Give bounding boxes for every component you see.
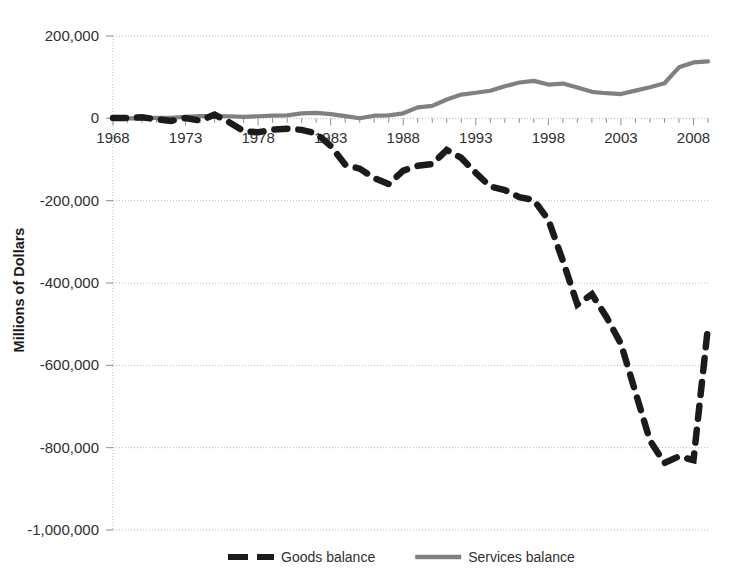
x-tick-label: 2003 [604,129,637,146]
y-tick-label: 0 [91,109,99,126]
data-series [113,61,708,463]
y-tick-label: -800,000 [40,439,99,456]
y-tick-label: -600,000 [40,356,99,373]
y-tick-label: -200,000 [40,192,99,209]
series-line-goods-balance [113,115,708,463]
x-tick-label: 1988 [387,129,420,146]
y-axis-title: Millions of Dollars [11,228,27,353]
x-tick-label: 1973 [169,129,202,146]
series-line-services-balance [113,61,708,118]
line-chart: 200,0000-200,000-400,000-600,000-800,000… [0,0,730,588]
y-tick-label: 200,000 [45,27,99,44]
x-tick-label: 2008 [677,129,710,146]
legend-label: Goods balance [281,549,375,565]
chart-container: 200,0000-200,000-400,000-600,000-800,000… [0,0,730,588]
x-tick-label: 1993 [459,129,492,146]
x-tick-label: 1968 [96,129,129,146]
y-tick-label: -400,000 [40,274,99,291]
y-tick-label: -1,000,000 [27,521,99,538]
x-tick-label: 1998 [532,129,565,146]
y-axis-tick-labels: 200,0000-200,000-400,000-600,000-800,000… [27,27,99,538]
chart-legend: Goods balanceServices balance [228,549,575,565]
legend-label: Services balance [468,549,575,565]
x-axis-tick-labels: 196819731978198319881993199820032008 [96,129,710,146]
y-axis-title-text: Millions of Dollars [11,228,27,353]
